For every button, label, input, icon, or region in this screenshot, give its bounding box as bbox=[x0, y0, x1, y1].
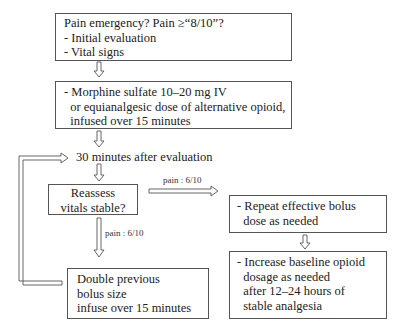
node-line: - Vital signs bbox=[64, 45, 291, 60]
node-line: stable analgesia bbox=[237, 299, 386, 314]
edge-label-pain-down: pain : 6/10 bbox=[105, 228, 144, 238]
node-line: after 12–24 hours of bbox=[237, 284, 386, 299]
node-line: or equianalgesic dose of alternative opi… bbox=[64, 100, 291, 115]
node-increase-baseline: - Increase baseline opioid dosage as nee… bbox=[229, 251, 387, 319]
node-line: infused over 15 minutes bbox=[64, 114, 291, 129]
arrow-down-icon bbox=[94, 218, 104, 257]
node-line: bolus size bbox=[77, 287, 208, 302]
node-line: - Increase baseline opioid bbox=[237, 255, 386, 270]
arrow-down-icon bbox=[94, 62, 104, 77]
arrow-down-icon bbox=[300, 235, 310, 249]
node-line: - Repeat effective bolus bbox=[237, 199, 386, 214]
node-line: vitals stable? bbox=[49, 201, 137, 216]
arrow-right-icon bbox=[149, 186, 218, 196]
node-line: - Initial evaluation bbox=[64, 31, 291, 46]
node-repeat-bolus: - Repeat effective bolus dose as needed bbox=[229, 195, 387, 233]
node-line: Pain emergency? Pain ≥“8/10”? bbox=[64, 16, 291, 31]
node-pain-emergency: Pain emergency? Pain ≥“8/10”? - Initial … bbox=[55, 13, 292, 61]
edge-label-pain-right: pain : 6/10 bbox=[163, 175, 202, 185]
node-line: dose as needed bbox=[237, 214, 386, 229]
node-30-minutes: 30 minutes after evaluation bbox=[76, 150, 212, 165]
node-line: - Morphine sulfate 10–20 mg IV bbox=[64, 85, 291, 100]
node-morphine: - Morphine sulfate 10–20 mg IV or equian… bbox=[55, 81, 292, 129]
node-line: dosage as needed bbox=[237, 270, 386, 285]
loop-back-arrow-icon bbox=[19, 153, 68, 285]
node-reassess: Reassess vitals stable? bbox=[48, 184, 138, 215]
node-line: Reassess bbox=[49, 186, 137, 201]
node-double-bolus: Double previous bolus size infuse over 1… bbox=[67, 268, 209, 319]
node-line: infuse over 15 minutes bbox=[77, 301, 208, 316]
node-line: Double previous bbox=[77, 272, 208, 287]
arrow-down-icon bbox=[94, 131, 104, 147]
arrow-down-icon bbox=[94, 164, 104, 181]
